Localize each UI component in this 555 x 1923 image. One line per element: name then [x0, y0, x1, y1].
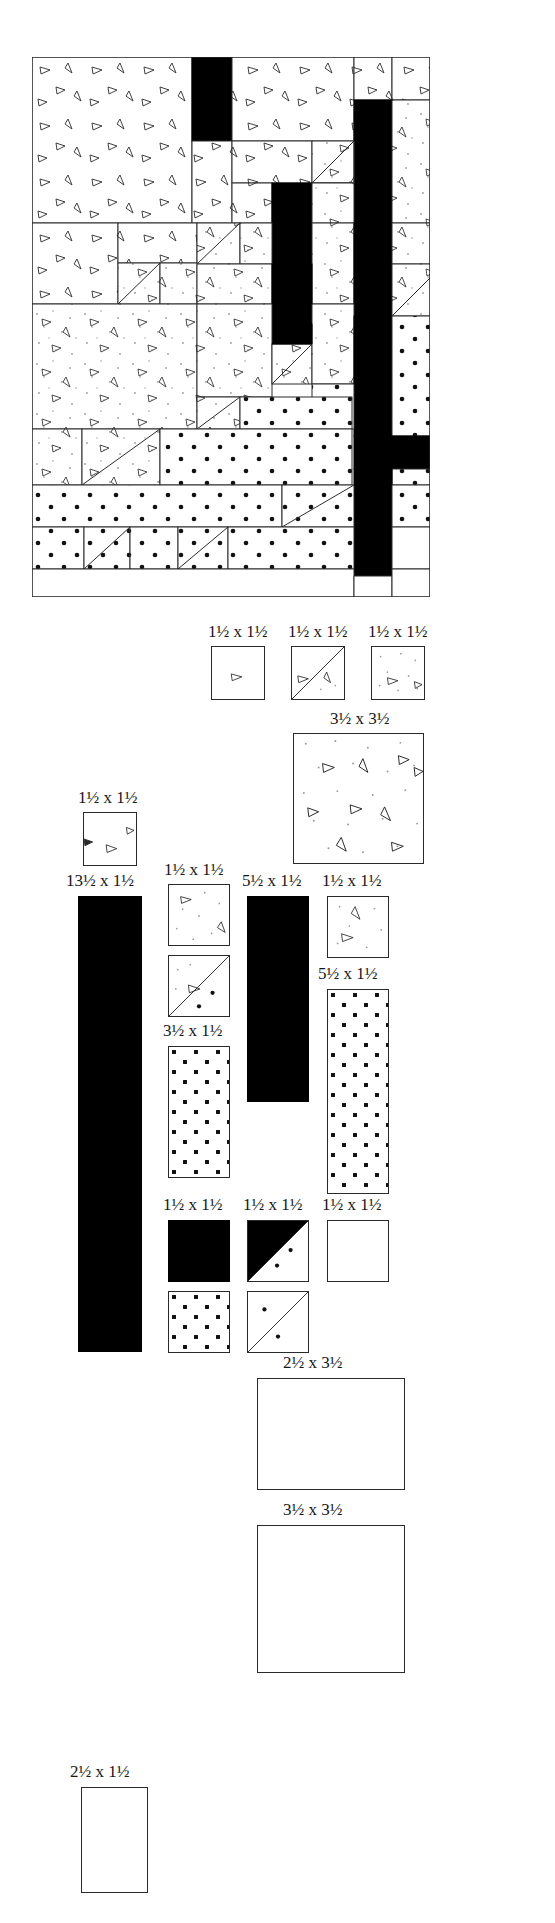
cut-piece-long-black-strip — [78, 896, 142, 1352]
half-square-diagonal-icon — [248, 1292, 308, 1352]
cut-piece-left-bg-square — [83, 812, 137, 866]
cut-label-mid-small: 1½ x 1½ — [164, 861, 224, 878]
half-square-diagonal-icon — [248, 1221, 308, 1281]
dot-print-icon — [294, 734, 423, 863]
cut-piece-black-polka-hst — [247, 1220, 309, 1282]
quilt-block-diagram — [32, 57, 430, 597]
dot-print-icon — [328, 897, 388, 957]
cut-label-white-big: 3½ x 3½ — [283, 1501, 343, 1518]
half-square-diagonal-icon — [292, 647, 344, 699]
dot-print-icon — [169, 885, 229, 945]
cut-piece-cactus-square — [371, 646, 425, 700]
cut-piece-bg-hst — [291, 646, 345, 700]
cut-piece-polka-hst — [247, 1291, 309, 1353]
cut-piece-black-square — [168, 1220, 230, 1282]
cut-label-black-bar: 5½ x 1½ — [242, 872, 302, 889]
cut-piece-mid-cactus-hst — [168, 955, 230, 1017]
cut-piece-black-bar-5x1 — [247, 896, 309, 1102]
cut-piece-right-cactus-square — [327, 896, 389, 958]
cut-piece-white-big-square — [257, 1525, 405, 1673]
cut-piece-white-rect — [257, 1378, 405, 1490]
cut-label-white-square: 1½ x 1½ — [322, 1196, 382, 1213]
cut-label-bottom-left: 2½ x 1½ — [70, 1763, 130, 1780]
cut-piece-cactus-big-square — [293, 733, 424, 864]
cut-piece-polka-square — [168, 1291, 230, 1353]
block-patchwork-svg — [32, 57, 430, 597]
cut-label-left-small: 1½ x 1½ — [78, 789, 138, 806]
triangle-motif-icon — [212, 647, 264, 699]
cut-label-right-small: 1½ x 1½ — [322, 872, 382, 889]
half-square-diagonal-icon — [169, 956, 229, 1016]
cut-label-r1c1: 1½ x 1½ — [208, 623, 268, 640]
dot-print-icon — [372, 647, 424, 699]
cut-label-long-black: 13½ x 1½ — [66, 872, 134, 889]
cut-label-black-square: 1½ x 1½ — [163, 1196, 223, 1213]
cut-piece-polka-tall-5x1 — [327, 989, 389, 1194]
triangle-motif-icon — [84, 813, 136, 865]
cut-piece-mid-cactus-square — [168, 884, 230, 946]
cut-label-r1c3: 1½ x 1½ — [368, 623, 428, 640]
cut-piece-white-rect-2x1 — [81, 1787, 148, 1893]
cut-label-right-tall: 5½ x 1½ — [318, 965, 378, 982]
cut-label-r1c2: 1½ x 1½ — [288, 623, 348, 640]
cut-piece-white-square — [327, 1220, 389, 1282]
cut-label-white-rect: 2½ x 3½ — [283, 1354, 343, 1371]
cut-label-mid-rect: 3½ x 1½ — [163, 1022, 223, 1039]
cut-label-black-polka-hst: 1½ x 1½ — [243, 1196, 303, 1213]
cut-piece-bg-square — [211, 646, 265, 700]
cut-piece-polka-rect-3x1 — [168, 1046, 230, 1178]
cut-label-big-cactus: 3½ x 3½ — [330, 710, 390, 727]
